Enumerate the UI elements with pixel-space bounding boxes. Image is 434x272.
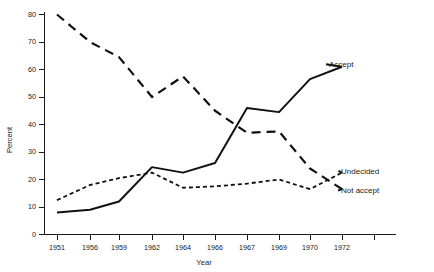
x-tick-label: 1969 [271,243,287,252]
y-tick-label: 0 [32,230,36,239]
x-axis-tick-labels: 1951 1956 1959 1962 1964 1966 1967 1969 … [49,243,350,252]
y-tick-label: 70 [28,37,36,46]
y-axis-ticks [39,15,45,235]
y-tick-label: 30 [28,147,36,156]
x-tick-label: 1966 [207,243,223,252]
x-tick-label: 1959 [111,243,127,252]
x-axis-ticks [57,235,374,241]
y-tick-label: 40 [28,120,36,129]
x-tick-label: 1956 [82,243,98,252]
x-tick-label: 1964 [175,243,191,252]
series-line-not-accept [57,15,342,190]
x-tick-label: 1962 [144,243,160,252]
x-tick-label: 1951 [49,243,65,252]
y-tick-label: 50 [28,92,36,101]
x-tick-label: 1972 [334,243,350,252]
y-axis-title: Percent [5,126,14,153]
y-axis-tick-labels: 80 70 60 50 40 30 20 10 0 [28,10,36,239]
x-tick-label: 1967 [239,243,255,252]
series-label-accept: Accept [329,60,354,69]
series-label-not-accept: Not accept [341,186,380,195]
y-tick-label: 10 [28,202,36,211]
series-line-undecided [57,173,342,201]
y-tick-label: 80 [28,10,36,19]
x-axis-title: Year [196,258,212,267]
series-line-accept [57,67,342,213]
y-tick-label: 60 [28,65,36,74]
x-tick-label: 1970 [302,243,318,252]
line-chart: Percent 80 70 60 50 40 30 20 10 0 [0,0,434,272]
chart-container: Percent 80 70 60 50 40 30 20 10 0 [0,0,434,272]
y-tick-label: 20 [28,175,36,184]
series-label-undecided: Undecided [341,167,379,176]
